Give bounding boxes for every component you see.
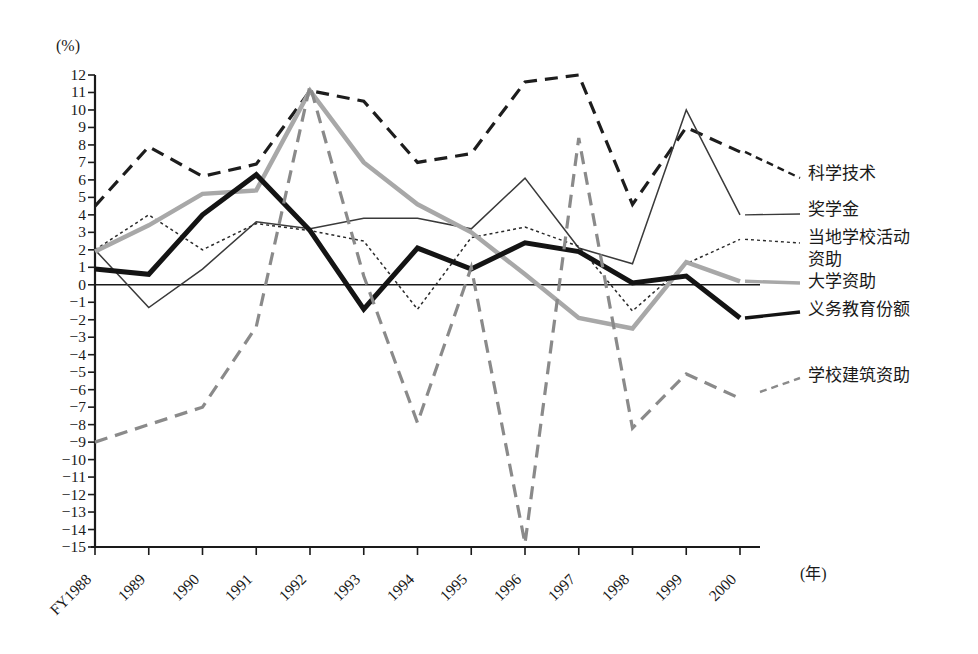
y-tick-label: 1	[40, 259, 86, 275]
legend-leader-4	[745, 312, 800, 318]
legend-label-1: 奖学金	[808, 200, 859, 220]
legend-label-6: 学校建筑资助	[808, 366, 910, 386]
y-tick-label: 6	[40, 172, 86, 188]
line-chart-plot	[0, 0, 978, 654]
series-line-4	[95, 175, 740, 318]
legend-label-4: 大学资助	[808, 272, 876, 292]
series-line-0	[95, 75, 740, 206]
y-tick-label: −8	[40, 417, 86, 433]
y-tick-label: −10	[40, 452, 86, 468]
legend-label-5: 义务教育份额	[808, 300, 910, 320]
legend-leader-3	[745, 281, 800, 283]
legend-label-3: 资助	[808, 250, 842, 270]
legend-leader-2	[745, 239, 800, 243]
series-line-3	[95, 91, 740, 329]
y-tick-label: 11	[40, 84, 86, 100]
legend-leader-1	[745, 214, 800, 215]
y-tick-label: 9	[40, 119, 86, 135]
y-tick-label: −12	[40, 487, 86, 503]
y-tick-label: 3	[40, 224, 86, 240]
y-tick-label: −13	[40, 504, 86, 520]
y-tick-label: 4	[40, 207, 86, 223]
series-line-1	[95, 110, 740, 308]
y-tick-label: 8	[40, 137, 86, 153]
legend-leader-0	[745, 152, 800, 178]
y-tick-label: 2	[40, 242, 86, 258]
y-tick-label: −4	[40, 347, 86, 363]
y-tick-label: −14	[40, 522, 86, 538]
y-tick-label: 0	[40, 277, 86, 293]
y-tick-label: 5	[40, 189, 86, 205]
legend-label-0: 科学技术	[808, 164, 876, 184]
y-tick-label: −2	[40, 312, 86, 328]
legend-label-2: 当地学校活动	[808, 228, 910, 248]
chart-canvas: (%) (年) 1211109876543210−1−2−3−4−5−6−7−8…	[0, 0, 978, 654]
y-tick-label: −11	[40, 469, 86, 485]
y-tick-label: −9	[40, 434, 86, 450]
y-tick-label: 10	[40, 102, 86, 118]
y-tick-label: −6	[40, 382, 86, 398]
legend-leader-5	[760, 378, 800, 392]
y-tick-label: −15	[40, 539, 86, 555]
y-tick-label: −5	[40, 364, 86, 380]
y-tick-label: −1	[40, 294, 86, 310]
y-tick-label: 12	[40, 67, 86, 83]
y-tick-label: −7	[40, 399, 86, 415]
y-tick-label: −3	[40, 329, 86, 345]
y-tick-label: 7	[40, 154, 86, 170]
